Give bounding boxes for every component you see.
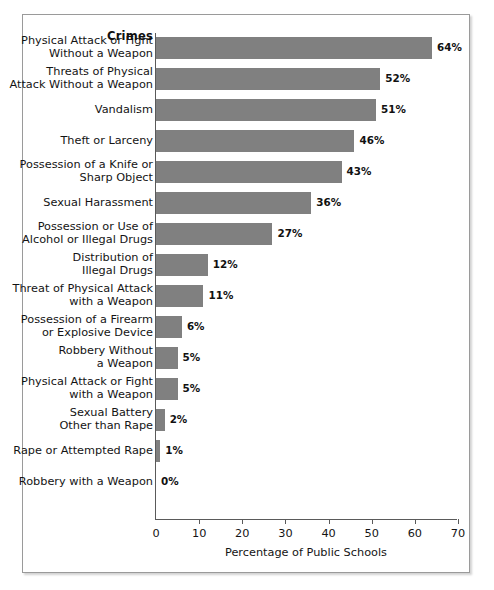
x-axis-tick-label: 40 <box>309 527 349 540</box>
bar-value-label: 12% <box>213 258 238 270</box>
x-axis-tick <box>458 519 459 524</box>
bar <box>156 347 178 369</box>
bar-value-label: 36% <box>316 196 341 208</box>
bar-category-label: Distribution of Illegal Drugs <box>3 251 153 277</box>
bar-value-label: 2% <box>170 413 188 425</box>
bar <box>156 223 272 245</box>
bar <box>156 440 160 462</box>
x-axis-tick-label: 20 <box>222 527 262 540</box>
bar <box>156 285 203 307</box>
bar-row: Possession of a Knife or Sharp Object43% <box>23 157 471 188</box>
x-axis-tick <box>285 519 286 524</box>
bar <box>156 192 311 214</box>
bar-row: Threat of Physical Attack with a Weapon1… <box>23 281 471 312</box>
bar-value-label: 27% <box>277 227 302 239</box>
bar-row: Possession of a Firearm or Explosive Dev… <box>23 312 471 343</box>
bar-category-label: Threat of Physical Attack with a Weapon <box>3 282 153 308</box>
chart-plot-area: Crimes Physical Attack or Fight Without … <box>23 15 469 572</box>
bar-row: Physical Attack or Fight Without a Weapo… <box>23 33 471 64</box>
bar-value-label: 51% <box>381 103 406 115</box>
bar-row: Robbery with a Weapon0% <box>23 467 471 498</box>
bar-value-label: 52% <box>385 72 410 84</box>
bar-row: Vandalism51% <box>23 95 471 126</box>
bar-category-label: Physical Attack or Fight Without a Weapo… <box>3 34 153 60</box>
bar-category-label: Sexual Harassment <box>3 196 153 209</box>
bar-category-label: Physical Attack or Fight with a Weapon <box>3 375 153 401</box>
bar-row: Theft or Larceny46% <box>23 126 471 157</box>
bar-category-label: Sexual Battery Other than Rape <box>3 406 153 432</box>
bar-row: Robbery Without a Weapon5% <box>23 343 471 374</box>
x-axis-tick <box>242 519 243 524</box>
x-axis-tick-label: 10 <box>179 527 219 540</box>
bar <box>156 99 376 121</box>
bar-row: Possession or Use of Alcohol or Illegal … <box>23 219 471 250</box>
bar-category-label: Robbery with a Weapon <box>3 475 153 488</box>
bar-row: Rape or Attempted Rape1% <box>23 436 471 467</box>
x-axis-tick <box>415 519 416 524</box>
bar-category-label: Possession of a Firearm or Explosive Dev… <box>3 313 153 339</box>
bar-value-label: 1% <box>165 444 183 456</box>
x-axis-tick <box>199 519 200 524</box>
bar-row: Sexual Harassment36% <box>23 188 471 219</box>
x-axis-tick <box>329 519 330 524</box>
bar <box>156 316 182 338</box>
bar <box>156 130 354 152</box>
bar <box>156 254 208 276</box>
bar-row: Sexual Battery Other than Rape2% <box>23 405 471 436</box>
bar-value-label: 6% <box>187 320 205 332</box>
bar-category-label: Possession or Use of Alcohol or Illegal … <box>3 220 153 246</box>
bar-value-label: 43% <box>347 165 372 177</box>
bar-value-label: 5% <box>183 351 201 363</box>
bar-value-label: 5% <box>183 382 201 394</box>
bar-value-label: 46% <box>359 134 384 146</box>
x-axis-title: Percentage of Public Schools <box>155 546 457 559</box>
bar <box>156 378 178 400</box>
x-axis-tick-label: 50 <box>352 527 392 540</box>
bar-value-label: 0% <box>161 475 179 487</box>
chart-figure: Crimes Physical Attack or Fight Without … <box>22 14 470 573</box>
bar-row: Threats of Physical Attack Without a Wea… <box>23 64 471 95</box>
bar-value-label: 11% <box>208 289 233 301</box>
bar-category-label: Rape or Attempted Rape <box>3 444 153 457</box>
x-axis-tick-label: 30 <box>265 527 305 540</box>
bar-category-label: Robbery Without a Weapon <box>3 344 153 370</box>
bar-value-label: 64% <box>437 41 462 53</box>
bar-category-label: Vandalism <box>3 103 153 116</box>
bar-row: Distribution of Illegal Drugs12% <box>23 250 471 281</box>
x-axis-tick <box>372 519 373 524</box>
bar <box>156 409 165 431</box>
bar <box>156 68 380 90</box>
x-axis-tick-label: 60 <box>395 527 435 540</box>
x-axis-tick-label: 70 <box>438 527 478 540</box>
bar-category-label: Possession of a Knife or Sharp Object <box>3 158 153 184</box>
bar-category-label: Theft or Larceny <box>3 134 153 147</box>
x-axis-line <box>155 519 457 520</box>
bar-row: Physical Attack or Fight with a Weapon5% <box>23 374 471 405</box>
bar-category-label: Threats of Physical Attack Without a Wea… <box>3 65 153 91</box>
bar <box>156 37 432 59</box>
bar <box>156 161 342 183</box>
x-axis-tick-label: 0 <box>136 527 176 540</box>
